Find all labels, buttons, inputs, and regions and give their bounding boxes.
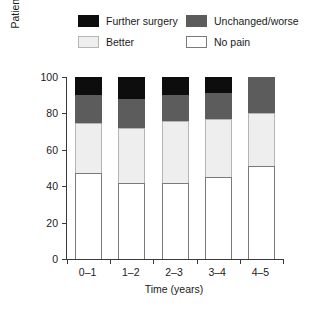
legend-row: Better No pain — [78, 31, 306, 52]
y-axis-label: Patients (%) — [8, 0, 22, 91]
bar-segment — [162, 95, 189, 120]
bar-slot — [197, 77, 240, 259]
bar-segment — [75, 173, 102, 259]
y-axis-tick-label: 40 — [46, 180, 58, 193]
x-axis-tick — [240, 259, 241, 264]
stacked-bar-chart-figure: Further surgery Unchanged/worse Better N… — [0, 0, 320, 309]
stacked-bar[interactable] — [118, 77, 145, 259]
legend-row: Further surgery Unchanged/worse — [78, 10, 306, 31]
legend-swatch-further-surgery-icon — [78, 15, 99, 27]
legend-item-unchanged-worse: Unchanged/worse — [186, 10, 306, 31]
x-axis-tick — [283, 259, 284, 264]
bar-segment — [205, 77, 232, 93]
bar-slot — [67, 77, 110, 259]
y-axis-tick-label: 0 — [52, 253, 58, 266]
bar-segment — [162, 183, 189, 259]
stacked-bar[interactable] — [162, 77, 189, 259]
stacked-bar[interactable] — [75, 77, 102, 259]
legend-swatch-better-icon — [78, 36, 99, 48]
bar-segment — [248, 166, 275, 259]
bar-slot — [153, 77, 196, 259]
legend-swatch-no-pain-icon — [186, 36, 207, 48]
x-axis-tick-label: 0–1 — [66, 266, 109, 279]
x-axis-tick-label: 4–5 — [239, 266, 282, 279]
x-axis-label: Time (years) — [66, 283, 282, 296]
bar-segment — [205, 93, 232, 118]
bar-segment — [205, 119, 232, 177]
bar-segment — [118, 183, 145, 259]
bar-slot — [240, 77, 283, 259]
y-axis-tick-label: 20 — [46, 217, 58, 230]
y-axis-tick-label: 60 — [46, 144, 58, 157]
legend-item-no-pain: No pain — [186, 31, 306, 52]
x-axis-tick-labels: 0–11–22–33–44–5 — [66, 266, 282, 279]
plot-area: 020406080100 — [66, 77, 283, 260]
bar-segment — [162, 77, 189, 95]
legend-item-further-surgery: Further surgery — [78, 10, 186, 31]
bar-segment — [118, 77, 145, 99]
bar-segment — [75, 123, 102, 174]
x-axis-tick-label: 1–2 — [109, 266, 152, 279]
legend-item-better: Better — [78, 31, 186, 52]
legend-label-no-pain: No pain — [214, 36, 250, 48]
x-axis-tick — [197, 259, 198, 264]
bar-segment — [205, 177, 232, 259]
stacked-bar[interactable] — [248, 77, 275, 259]
legend-label-further-surgery: Further surgery — [106, 15, 178, 27]
y-axis-tick-label: 100 — [40, 71, 58, 84]
y-axis-tick-label: 80 — [46, 107, 58, 120]
legend-label-better: Better — [106, 36, 134, 48]
bar-segment — [248, 113, 275, 166]
x-axis-tick — [110, 259, 111, 264]
legend-swatch-unchanged-worse-icon — [186, 15, 207, 27]
bar-slot — [110, 77, 153, 259]
chart-legend: Further surgery Unchanged/worse Better N… — [78, 10, 306, 52]
bar-segment — [162, 121, 189, 183]
x-axis-tick — [153, 259, 154, 264]
x-axis-tick — [67, 259, 68, 264]
bar-segment — [75, 95, 102, 122]
bar-segment — [75, 77, 102, 95]
stacked-bar[interactable] — [205, 77, 232, 259]
x-axis-tick-label: 2–3 — [152, 266, 195, 279]
x-axis-tick-label: 3–4 — [196, 266, 239, 279]
bar-segment — [118, 128, 145, 183]
bar-segment — [248, 77, 275, 113]
bar-group — [67, 77, 283, 259]
legend-label-unchanged-worse: Unchanged/worse — [214, 15, 299, 27]
bar-segment — [118, 99, 145, 128]
